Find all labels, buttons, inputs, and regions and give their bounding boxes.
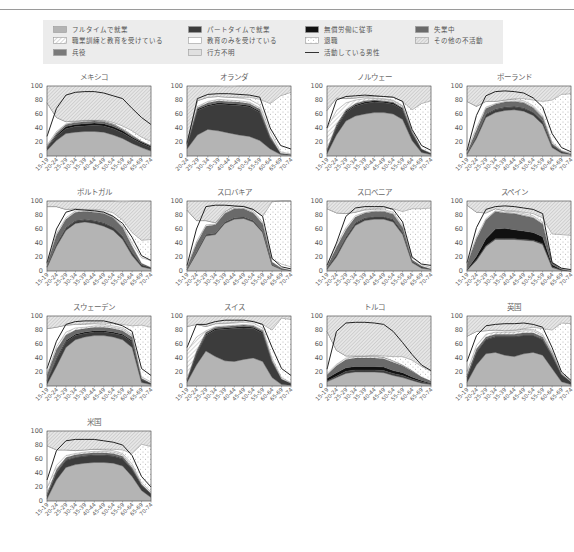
svg-text:100: 100 <box>171 312 183 320</box>
area-plot: 02040608010015-1920-2425-2930-3435-3940-… <box>422 71 574 189</box>
svg-text:60: 60 <box>315 340 323 348</box>
country-chart-8: スウェーデン02040608010015-1920-2425-2930-3435… <box>2 301 142 416</box>
svg-text:20: 20 <box>315 138 323 146</box>
legend-label: 職業訓練と教育を受けている <box>72 35 163 45</box>
svg-text:40: 40 <box>455 124 463 132</box>
svg-text:40: 40 <box>175 239 183 247</box>
svg-text:100: 100 <box>31 82 43 90</box>
area-plot: 02040608010015-1920-2425-2930-3435-3940-… <box>282 301 442 419</box>
area-plot: 02040608010015-1920-2425-2930-3435-3940-… <box>2 416 162 534</box>
legend-item-other_inactive: その他の不活動 <box>415 35 483 45</box>
svg-text:40: 40 <box>455 239 463 247</box>
svg-text:80: 80 <box>455 211 463 219</box>
country-chart-1: オランダ02040608010020-2425-2930-3435-3940-4… <box>142 71 282 186</box>
legend-swatch <box>188 26 202 33</box>
svg-text:40: 40 <box>455 354 463 362</box>
svg-text:40: 40 <box>35 239 43 247</box>
svg-text:80: 80 <box>455 326 463 334</box>
legend-swatch <box>188 49 202 56</box>
legend-swatch <box>188 37 202 44</box>
svg-text:20: 20 <box>35 483 43 491</box>
legend-item-military: 兵役 <box>53 47 86 57</box>
svg-text:40: 40 <box>315 354 323 362</box>
legend-item-unknown: 行方不明 <box>188 47 235 57</box>
legend-swatch <box>415 37 429 44</box>
legend-label: その他の不活動 <box>434 35 483 45</box>
area-plot: 02040608010015-1920-2425-2930-3435-3940-… <box>142 186 302 304</box>
legend-label: 失業中 <box>434 24 455 34</box>
legend-label: 活動している男性 <box>324 47 380 57</box>
svg-text:60: 60 <box>455 340 463 348</box>
legend-item-retired: 退職 <box>305 35 338 45</box>
svg-text:80: 80 <box>35 96 43 104</box>
svg-text:20: 20 <box>35 138 43 146</box>
svg-text:80: 80 <box>35 326 43 334</box>
country-chart-0: メキシコ02040608010015-1920-2425-2930-3435-3… <box>2 71 142 186</box>
svg-text:60: 60 <box>35 225 43 233</box>
area-plot: 02040608010015-1920-2425-2930-3435-3940-… <box>2 186 162 304</box>
svg-text:20: 20 <box>175 253 183 261</box>
svg-text:60: 60 <box>35 455 43 463</box>
legend-item-part_time: パートタイムで就業 <box>188 24 270 34</box>
svg-text:20: 20 <box>455 253 463 261</box>
svg-text:40: 40 <box>35 469 43 477</box>
area-plot: 02040608010015-1920-2425-2930-3435-3940-… <box>142 301 302 419</box>
country-chart-4: ポルトガル02040608010015-1920-2425-2930-3435-… <box>2 186 142 301</box>
legend-swatch <box>53 49 67 56</box>
svg-text:100: 100 <box>31 312 43 320</box>
svg-text:80: 80 <box>315 326 323 334</box>
svg-text:60: 60 <box>175 340 183 348</box>
svg-text:100: 100 <box>311 312 323 320</box>
country-chart-12: 米国02040608010015-1920-2425-2930-3435-394… <box>2 416 142 531</box>
svg-text:60: 60 <box>455 110 463 118</box>
area-plot: 02040608010015-1920-2425-2930-3435-3940-… <box>282 186 442 304</box>
svg-text:40: 40 <box>175 354 183 362</box>
legend-label: パートタイムで就業 <box>207 24 270 34</box>
svg-text:60: 60 <box>455 225 463 233</box>
country-chart-6: スロベニア02040608010015-1920-2425-2930-3435-… <box>282 186 422 301</box>
svg-text:80: 80 <box>35 441 43 449</box>
svg-text:20: 20 <box>35 368 43 376</box>
svg-text:20: 20 <box>315 368 323 376</box>
svg-text:80: 80 <box>455 96 463 104</box>
area-plot: 02040608010015-1920-2425-2930-3435-3940-… <box>2 301 162 419</box>
country-chart-7: スペイン02040608010015-1920-2425-2930-3435-3… <box>422 186 562 301</box>
svg-text:60: 60 <box>175 225 183 233</box>
legend-label: 教育のみを受けている <box>207 35 277 45</box>
legend-item-full_time: フルタイムで就業 <box>53 24 128 34</box>
svg-text:20: 20 <box>35 253 43 261</box>
svg-text:20: 20 <box>175 138 183 146</box>
legend-item-active_men: 活動している男性 <box>305 47 380 57</box>
country-chart-3: ポーランド02040608010015-1920-2425-2930-3435-… <box>422 71 562 186</box>
svg-text:40: 40 <box>315 239 323 247</box>
legend-swatch <box>53 37 67 44</box>
svg-text:80: 80 <box>315 211 323 219</box>
legend-swatch <box>305 37 319 44</box>
country-chart-9: スイス02040608010015-1920-2425-2930-3435-39… <box>142 301 282 416</box>
svg-text:60: 60 <box>35 340 43 348</box>
svg-text:100: 100 <box>311 82 323 90</box>
svg-text:60: 60 <box>315 225 323 233</box>
svg-text:60: 60 <box>315 110 323 118</box>
legend-item-education: 教育のみを受けている <box>188 35 277 45</box>
legend-label: 兵役 <box>72 47 86 57</box>
svg-text:80: 80 <box>175 211 183 219</box>
svg-text:20: 20 <box>315 253 323 261</box>
area-plot: 02040608010020-2425-2930-3435-3940-4445-… <box>142 71 302 189</box>
country-chart-2: ノルウェー02040608010015-1920-2425-2930-3435-… <box>282 71 422 186</box>
legend-swatch <box>305 26 319 33</box>
svg-text:100: 100 <box>171 197 183 205</box>
area-plot: 02040608010015-1920-2425-2930-3435-3940-… <box>422 186 574 304</box>
svg-text:20: 20 <box>455 138 463 146</box>
area-plot: 02040608010015-1920-2425-2930-3435-3940-… <box>282 71 442 189</box>
legend-item-unpaid: 無償労働に従事 <box>305 24 373 34</box>
svg-text:80: 80 <box>175 326 183 334</box>
svg-text:100: 100 <box>311 197 323 205</box>
country-chart-11: 英国02040608010015-1920-2425-2930-3435-394… <box>422 301 562 416</box>
legend-item-unemployed: 失業中 <box>415 24 455 34</box>
legend-swatch <box>415 26 429 33</box>
area-plot: 02040608010015-1920-2425-2930-3435-3940-… <box>2 71 162 189</box>
area-plot: 02040608010015-1920-2425-2930-3435-3940-… <box>422 301 574 419</box>
country-chart-10: トルコ02040608010015-1920-2425-2930-3435-39… <box>282 301 422 416</box>
legend-label: フルタイムで就業 <box>72 24 128 34</box>
